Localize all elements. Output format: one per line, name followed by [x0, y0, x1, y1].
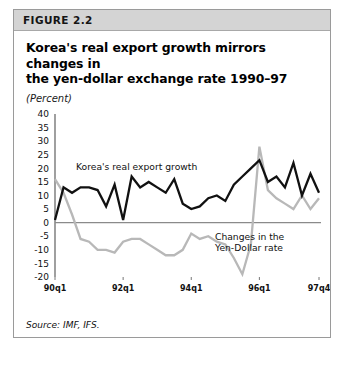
series-label-export-growth: Korea's real export growth: [76, 160, 197, 171]
x-axis-tick-label: 94q1: [180, 284, 203, 293]
figure-page: FIGURE 2.2 Korea's real export growth mi…: [0, 0, 346, 366]
x-axis-tick-label: 97q4: [308, 284, 330, 293]
source-note: Source: IMF, IFS.: [26, 320, 100, 330]
y-axis-tick-label: 10: [38, 190, 50, 200]
y-axis-tick-label: 15: [38, 177, 49, 187]
chart-units-label: (Percent): [26, 93, 318, 104]
chart-title-line-1: Korea's real export growth mirrors chang…: [26, 40, 318, 71]
figure-number-label: FIGURE 2.2: [23, 14, 93, 26]
y-axis-tick-label: 5: [43, 204, 49, 214]
line-chart: 4035302520151050-5-10-15-2090q192q194q19…: [14, 106, 330, 316]
x-axis-tick-label: 92q1: [112, 284, 135, 293]
y-axis-tick-label: 20: [38, 163, 50, 173]
x-axis-tick-label: 90q1: [44, 284, 67, 293]
y-axis-tick-label: -10: [34, 245, 49, 255]
y-axis-tick-label: 0: [43, 217, 49, 227]
figure-header: Korea's real export growth mirrors chang…: [14, 31, 330, 104]
y-axis-tick-label: 30: [38, 136, 50, 146]
y-axis-tick-label: 35: [38, 122, 49, 132]
x-axis-tick-label: 96q1: [248, 284, 271, 293]
series-label-yen-dollar-line-2: Yen-Dollar rate: [214, 241, 283, 252]
figure-banner: FIGURE 2.2: [14, 10, 330, 31]
y-axis-tick-label: -20: [34, 272, 49, 282]
chart-plot-area: 4035302520151050-5-10-15-2090q192q194q19…: [14, 106, 330, 316]
y-axis-tick-label: 25: [38, 149, 49, 159]
y-axis-tick-label: -5: [40, 231, 49, 241]
chart-title-line-2: the yen-dollar exchange rate 1990–97: [26, 71, 318, 87]
y-axis-tick-label: -15: [34, 258, 49, 268]
y-axis-tick-label: 40: [38, 109, 50, 119]
figure-box: FIGURE 2.2 Korea's real export growth mi…: [13, 9, 331, 338]
page-title: Korea's real export growth mirrors chang…: [26, 40, 318, 87]
